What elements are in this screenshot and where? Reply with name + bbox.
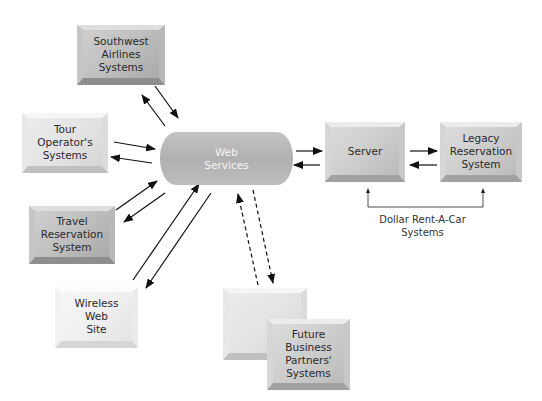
node-label: Server bbox=[348, 145, 382, 158]
node-label: Travel Reservation System bbox=[41, 215, 103, 254]
node-label: Southwest Airlines Systems bbox=[93, 35, 148, 74]
node-legacy-reservation: Legacy Reservation System bbox=[440, 122, 522, 182]
hub-label: Web Services bbox=[204, 146, 248, 172]
node-wireless-web-site: Wireless Web Site bbox=[55, 287, 138, 348]
node-label: Legacy Reservation System bbox=[450, 132, 512, 171]
node-tour-operators: Tour Operator's Systems bbox=[22, 113, 108, 173]
group-label-dollar-rent-a-car: Dollar Rent-A-Car Systems bbox=[360, 213, 485, 239]
node-label: Wireless Web Site bbox=[75, 297, 119, 336]
hub-web-services: Web Services bbox=[160, 132, 293, 185]
node-future-business-partners: Future Business Partners' Systems bbox=[267, 319, 350, 390]
node-travel-reservation: Travel Reservation System bbox=[29, 206, 115, 264]
node-label: Tour Operator's Systems bbox=[37, 123, 92, 162]
node-server: Server bbox=[325, 122, 405, 182]
node-southwest-airlines: Southwest Airlines Systems bbox=[77, 25, 165, 85]
node-label: Future Business Partners' Systems bbox=[285, 328, 332, 380]
